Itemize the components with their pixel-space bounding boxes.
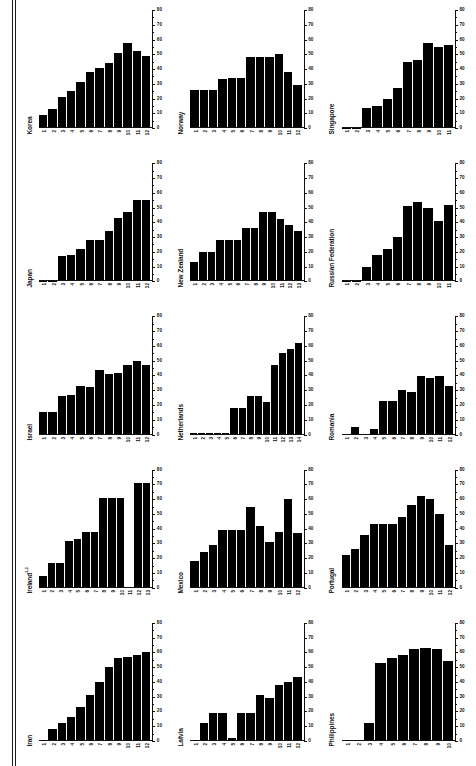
y-tick [152,499,155,500]
bar [58,396,66,434]
bar [91,532,99,588]
x-tick: 5 [225,282,233,300]
bar [134,483,142,588]
y-tick [152,623,155,624]
bar [444,205,453,282]
x-tick-label: 2 [356,130,361,133]
page-gutter-rule-right [15,0,16,766]
x-tick-label: 10 [127,130,132,135]
plot-wrap: 123456789101112 [190,623,303,760]
y-tick-minor [304,675,306,676]
y-tick [455,178,458,179]
y-tick-minor [455,47,457,48]
bar [387,658,397,741]
y-tick [455,252,458,253]
bar [133,200,141,281]
bar [133,361,141,435]
y-tick-label: 70 [459,482,464,487]
plot-wrap: 12345678910 [342,623,455,760]
y-tick-minor [455,121,457,122]
x-tick-label: 10 [430,590,435,595]
plot-area [39,163,152,281]
axis-baseline [39,434,152,435]
x-axis-labels: 12345678910111213 [39,589,152,607]
y-tick-label: 70 [308,176,313,181]
y-tick [152,588,155,589]
x-tick-label: 11 [137,283,142,288]
y-tick [152,682,155,683]
y-tick-minor [152,215,154,216]
x-tick: 6 [393,129,402,147]
bar [271,365,278,434]
y-tick [304,405,307,406]
bar [142,365,150,434]
x-tick-label: 2 [355,437,360,440]
bar [351,549,359,587]
x-tick-label: 13 [147,590,152,595]
bar [76,82,84,128]
bar [293,85,301,128]
x-tick-label: 10 [127,283,132,288]
y-tick-label: 70 [157,176,162,181]
x-tick: 1 [39,129,47,147]
x-tick-label: 10 [279,130,284,135]
bar [218,530,226,588]
bar [67,395,75,435]
bar [279,353,286,434]
x-tick-label: 2 [358,743,363,746]
y-tick [304,697,307,698]
y-tick-minor [152,62,154,63]
y-tick-label: 80 [459,314,464,319]
y-tick [304,588,307,589]
y-tick-label: 20 [459,556,464,561]
x-tick-label: 10 [279,590,284,595]
y-tick-minor [304,47,306,48]
chart-panel: New Zealand12345678910111213010203040506… [173,153,324,306]
bar [237,530,245,588]
x-tick-label: 7 [251,590,256,593]
plot-area [39,470,152,588]
y-tick [455,697,458,698]
x-tick: 9 [114,282,122,300]
y-tick-label: 50 [308,358,313,363]
y-tick [304,54,307,55]
y-tick-minor [455,324,457,325]
panel-inner: Portugal12345678910111201020304050607080 [329,470,472,607]
y-tick-label: 20 [308,96,313,101]
y-tick [152,178,155,179]
x-tick: 11 [125,589,133,607]
x-tick-label: 6 [393,590,398,593]
x-tick: 7 [95,742,103,760]
chart-panel: Mexico12345678910111201020304050607080 [173,460,324,613]
bar [143,483,151,588]
x-tick-label: 1 [195,743,200,746]
axis-baseline [342,127,455,128]
y-tick [304,99,307,100]
y-tick-minor [152,551,154,552]
chart-panel: Romania12345678910111201020304050607080 [325,306,476,459]
y-tick-minor [152,398,154,399]
bar [65,541,73,588]
x-axis-labels: 123456789101112 [39,436,152,454]
bar [67,91,75,128]
y-tick-label: 10 [157,418,162,423]
x-tick: 10 [275,129,283,147]
bar [95,240,103,281]
x-tick: 7 [246,742,254,760]
y-tick [152,252,155,253]
y-tick [304,573,307,574]
y-tick-label: 40 [157,220,162,225]
y-tick-label: 10 [308,418,313,423]
y-tick-minor [304,507,306,508]
x-tick: 6 [237,742,245,760]
x-tick: 7 [403,129,412,147]
y-tick-label: 60 [157,497,162,502]
bar [242,228,250,281]
x-tick-label: 1 [346,283,351,286]
bar [435,376,443,435]
x-tick: 11 [133,129,141,147]
y-tick-label: 60 [157,190,162,195]
y-tick-label: 40 [157,373,162,378]
y-tick [152,237,155,238]
y-tick [455,208,458,209]
